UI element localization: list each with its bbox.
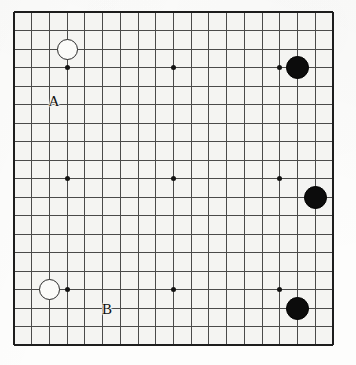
star-point [171,65,176,70]
grid-line-horizontal [14,234,333,235]
black-stone-right-side[interactable] [304,186,327,209]
grid-line-horizontal [14,104,333,105]
grid-line-horizontal [14,160,333,161]
white-stone-upper-left[interactable] [57,39,78,60]
point-label-b: B [102,302,112,317]
grid-line-horizontal [14,86,333,87]
black-stone-upper-right[interactable] [286,56,309,79]
grid-line-horizontal [14,252,333,253]
grid-line-horizontal [14,326,333,327]
star-point [65,287,70,292]
grid-line-horizontal [14,215,333,216]
grid-line-horizontal [14,141,333,142]
white-stone-lower-left[interactable] [39,279,60,300]
black-stone-lower-right[interactable] [286,297,309,320]
point-label-a: A [49,94,60,109]
grid-line-horizontal [14,197,333,198]
board-border-top [14,11,333,13]
go-board[interactable]: AB [14,12,333,345]
star-point [65,65,70,70]
star-point [171,176,176,181]
board-border-left [13,12,15,345]
grid-line-horizontal [14,271,333,272]
grid-line-horizontal [14,123,333,124]
grid-line-horizontal [14,30,333,31]
star-point [171,287,176,292]
star-point [65,176,70,181]
go-diagram-root: AB [0,0,356,365]
board-border-right [332,12,334,345]
board-border-bottom [14,344,333,346]
